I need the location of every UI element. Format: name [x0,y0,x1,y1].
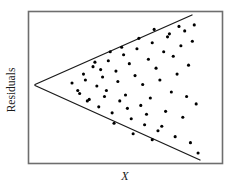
scatter-point [193,23,196,26]
scatter-point [130,117,133,120]
scatter-point [176,73,179,76]
residual-plot-svg: Residuals X [0,0,231,187]
scatter-point [153,28,156,31]
scatter-point [172,55,175,58]
scatter-point [86,99,89,102]
scatter-point [143,123,146,126]
scatter-point [139,104,142,107]
scatter-point [76,89,79,92]
scatter-point [82,73,85,76]
scatter-point [135,47,138,50]
scatter-point [145,113,148,116]
scatter-point [124,93,127,96]
scatter-point [191,40,194,43]
scatter-point [114,70,117,73]
scatter-point [141,83,144,86]
scatter-point [137,37,140,40]
scatter-point [160,125,163,128]
scatter-point [99,68,102,71]
plot-frame [29,12,223,164]
scatter-point [162,50,165,53]
scatter-point [111,111,114,114]
scatter-point [91,65,94,68]
y-axis-label: Residuals [5,67,17,112]
scatter-point [128,62,131,65]
scatter-point [109,50,112,53]
scatter-point [97,105,100,108]
scatter-point [185,95,188,98]
scatter-point [116,80,119,83]
scatter-point [120,46,123,49]
scatter-point [126,107,129,110]
scatter-point [197,152,200,155]
scatter-point [168,32,171,35]
scatter-point [122,53,125,56]
scatter-point [170,90,173,93]
scatter-point [78,92,81,95]
scatter-point [174,135,177,138]
scatter-point [151,138,154,141]
scatter-point [151,41,154,44]
scatter-point [181,116,184,119]
scatter-point [189,141,192,144]
scatter-point [195,102,198,105]
scatter-point [187,64,190,67]
scatter-point [112,122,115,125]
scatter-point [158,79,161,82]
scatter-point [84,79,87,82]
scatter-point [156,129,159,132]
scatter-point [177,25,180,28]
scatter-point [134,74,137,77]
scatter-point [70,81,73,84]
scatter-point [118,99,121,102]
scatter-point [164,110,167,113]
scatter-point [166,35,169,38]
scatter-point [103,95,106,98]
scatter-point [179,44,182,47]
scatter-point [147,58,150,61]
residual-plot-figure: Residuals X [0,0,231,187]
scatter-point [95,84,98,87]
scatter-point [132,132,135,135]
scatter-point [101,76,104,79]
scatter-point [155,67,158,70]
scatter-point [107,59,110,62]
x-axis-label: X [120,169,129,183]
scatter-point [105,89,108,92]
scatter-point [183,29,186,32]
scatter-point [149,96,152,99]
scatter-point [93,61,96,64]
